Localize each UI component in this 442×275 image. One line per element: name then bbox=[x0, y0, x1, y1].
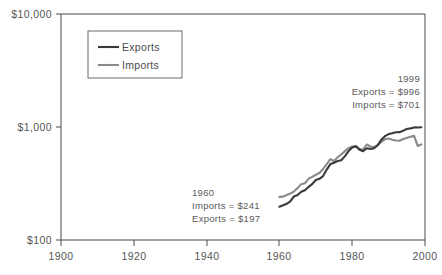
y-tick-label-1000: $1,000 bbox=[17, 121, 52, 133]
x-tick-label-2000: 2000 bbox=[413, 250, 438, 262]
annotation-1999-exports: Exports = $996 bbox=[352, 86, 420, 97]
x-tick-label-1920: 1920 bbox=[122, 250, 147, 262]
chart-legend: Exports Imports bbox=[88, 31, 182, 78]
x-tick-label-1940: 1940 bbox=[195, 250, 220, 262]
annotation-1999: 1999 Exports = $996 Imports = $701 bbox=[352, 73, 420, 110]
x-tick-label-1960: 1960 bbox=[267, 250, 292, 262]
legend-label-exports: Exports bbox=[122, 41, 160, 53]
annotation-1960-imports: Imports = $241 bbox=[192, 200, 260, 211]
line-chart: $10,000 $1,000 $100 1900 1920 1940 1960 … bbox=[0, 0, 442, 275]
series-line-imports bbox=[279, 136, 421, 197]
data-series-group bbox=[279, 127, 421, 207]
annotation-1999-imports: Imports = $701 bbox=[352, 99, 420, 110]
annotation-1999-year: 1999 bbox=[398, 73, 420, 84]
y-tick-label-10000: $10,000 bbox=[11, 8, 52, 20]
x-axis: 1900 1920 1940 1960 1980 2000 bbox=[49, 240, 438, 262]
annotation-1960-year: 1960 bbox=[192, 187, 214, 198]
annotation-1960: 1960 Imports = $241 Exports = $197 bbox=[192, 187, 260, 224]
y-axis: $10,000 $1,000 $100 bbox=[11, 8, 61, 246]
legend-label-imports: Imports bbox=[122, 59, 159, 71]
x-tick-label-1900: 1900 bbox=[49, 250, 74, 262]
series-line-exports bbox=[279, 127, 421, 207]
chart-container: $10,000 $1,000 $100 1900 1920 1940 1960 … bbox=[0, 0, 442, 275]
y-tick-label-100: $100 bbox=[27, 234, 52, 246]
annotation-1960-exports: Exports = $197 bbox=[192, 213, 260, 224]
x-tick-label-1980: 1980 bbox=[340, 250, 365, 262]
